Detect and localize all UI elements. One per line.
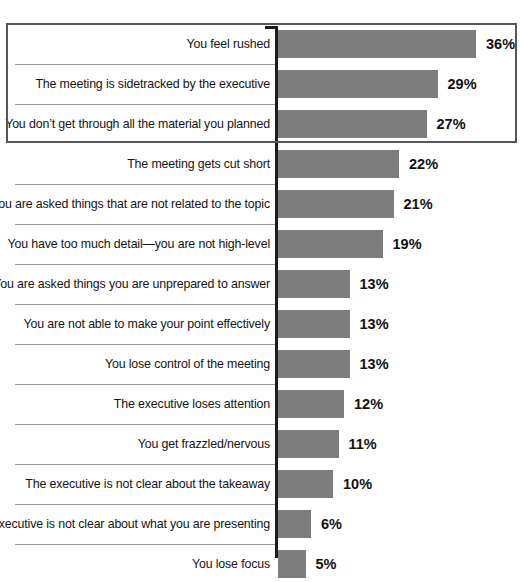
bar-value-label: 19% [393,224,422,264]
bar-row: The meeting gets cut short22% [0,144,524,184]
bar-row: You get frazzled/nervous11% [0,424,524,464]
bar [278,110,427,138]
bar-row: You lose focus5% [0,544,524,582]
bar [278,150,399,178]
category-label: The executive loses attention [114,384,270,424]
bar-row: The executive is not clear about what yo… [0,504,524,544]
bar-value-label: 6% [321,504,342,544]
bar-value-label: 36% [486,24,515,64]
bar-value-label: 13% [360,264,389,304]
bar-value-label: 22% [409,144,438,184]
category-label: You lose control of the meeting [105,344,270,384]
bar-row: The meeting is sidetracked by the execut… [0,64,524,104]
bar-row: You don’t get through all the material y… [0,104,524,144]
bar-value-label: 29% [448,64,477,104]
category-label: You feel rushed [187,24,270,64]
bar [278,230,383,258]
bar-row: You are asked things that are not relate… [0,184,524,224]
bar-value-label: 13% [360,344,389,384]
bar-row: You are not able to make your point effe… [0,304,524,344]
category-label: The executive is not clear about the tak… [25,464,270,504]
category-label: You are not able to make your point effe… [24,304,270,344]
bar-value-label: 13% [360,304,389,344]
bar [278,270,350,298]
category-label: You are asked things you are unprepared … [0,264,270,304]
category-label: You get frazzled/nervous [138,424,270,464]
category-label: You don’t get through all the material y… [5,104,270,144]
category-label: You are asked things that are not relate… [0,184,270,224]
category-label: You lose focus [192,544,270,582]
category-label: The executive is not clear about what yo… [0,504,270,544]
bar-row: You are asked things you are unprepared … [0,264,524,304]
bar-value-label: 11% [349,424,377,464]
bar [278,390,344,418]
bar-value-label: 10% [343,464,372,504]
bar-row: The executive is not clear about the tak… [0,464,524,504]
bar [278,550,306,578]
category-label: The meeting is sidetracked by the execut… [35,64,270,104]
category-label: The meeting gets cut short [127,144,270,184]
bar-value-label: 12% [354,384,383,424]
bar [278,190,394,218]
bar-value-label: 5% [316,544,337,582]
bar-value-label: 21% [404,184,433,224]
bar-row: The executive loses attention12% [0,384,524,424]
bar-row: You lose control of the meeting13% [0,344,524,384]
bar [278,70,438,98]
bar [278,430,339,458]
bar [278,510,311,538]
bar [278,470,333,498]
bar [278,350,350,378]
bar [278,310,350,338]
bar-value-label: 27% [437,104,466,144]
bar [278,30,476,58]
category-label: You have too much detail—you are not hig… [7,224,270,264]
bar-row: You feel rushed36% [0,24,524,64]
bar-row: You have too much detail—you are not hig… [0,224,524,264]
